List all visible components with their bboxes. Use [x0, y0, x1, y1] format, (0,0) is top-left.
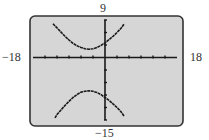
xmax-label: 18: [190, 51, 202, 63]
calculator-screen: [0, 0, 209, 140]
xmin-label: −18: [2, 51, 21, 63]
ymin-label: −15: [95, 127, 114, 139]
ymax-label: 9: [100, 2, 106, 14]
